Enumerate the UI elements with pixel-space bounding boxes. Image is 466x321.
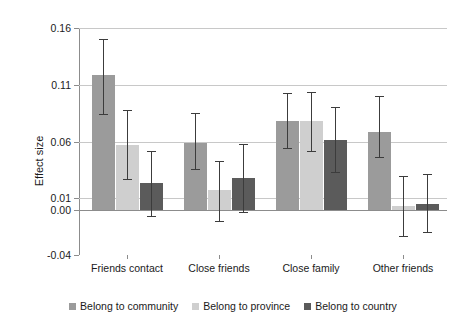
error-bar-stem (127, 110, 128, 179)
gridline (79, 85, 447, 86)
y-tick-label: 0.00 (51, 204, 71, 216)
x-tick-label: Close family (282, 262, 339, 274)
x-tick-mark (219, 255, 220, 259)
error-bar-cap-upper (307, 92, 316, 93)
error-bar-stem (243, 144, 244, 212)
y-tick-label: 0.11 (51, 79, 71, 91)
error-bar-cap-upper (423, 174, 432, 175)
error-bar-cap-upper (215, 161, 224, 162)
legend-entry: Belong to province (192, 300, 290, 312)
error-bar-stem (403, 176, 404, 236)
legend-label: Belong to community (80, 300, 178, 312)
error-bar-cap-lower (215, 221, 224, 222)
error-bar-cap-upper (191, 113, 200, 114)
x-tick-mark (311, 255, 312, 259)
gridline (79, 210, 447, 211)
error-bar-cap-lower (147, 216, 156, 217)
y-tick-label: 0.06 (51, 136, 71, 148)
plot-area: 0.160.110.060.010.00-0.04 (79, 28, 447, 255)
error-bar-cap-upper (375, 96, 384, 97)
y-tick-mark (74, 255, 79, 256)
error-bar-cap-lower (423, 232, 432, 233)
error-bar-cap-lower (123, 179, 132, 180)
x-tick-mark (403, 255, 404, 259)
error-bar-cap-upper (147, 151, 156, 152)
error-bar-cap-lower (239, 212, 248, 213)
y-tick-mark (74, 142, 79, 143)
chart-legend: Belong to communityBelong to provinceBel… (0, 300, 466, 312)
y-tick-mark (74, 85, 79, 86)
legend-swatch (304, 303, 311, 310)
error-bar-stem (103, 39, 104, 114)
legend-entry: Belong to country (304, 300, 397, 312)
error-bar-cap-upper (399, 176, 408, 177)
gridline (79, 142, 447, 143)
y-tick-label: 0.01 (51, 192, 71, 204)
error-bar-stem (287, 93, 288, 149)
y-tick-mark (74, 210, 79, 211)
y-axis-title: Effect size (33, 135, 45, 186)
error-bar-cap-upper (123, 110, 132, 111)
error-bar-cap-lower (399, 236, 408, 237)
error-bar-cap-lower (99, 114, 108, 115)
legend-label: Belong to country (315, 300, 397, 312)
error-bar-cap-lower (331, 172, 340, 173)
y-tick-mark (74, 28, 79, 29)
legend-swatch (192, 303, 199, 310)
error-bar-stem (335, 107, 336, 172)
error-bar-stem (311, 92, 312, 151)
effect-size-bar-chart: Effect size 0.160.110.060.010.00-0.04 Fr… (0, 0, 466, 321)
legend-swatch (69, 303, 76, 310)
x-tick-label: Close friends (188, 262, 249, 274)
y-tick-label: 0.16 (51, 22, 71, 34)
error-bar-cap-lower (307, 151, 316, 152)
error-bar-cap-upper (331, 107, 340, 108)
x-tick-mark (127, 255, 128, 259)
y-tick-label: -0.04 (47, 249, 71, 261)
error-bar-stem (379, 96, 380, 157)
gridline (79, 28, 447, 29)
error-bar-stem (427, 174, 428, 232)
x-tick-label: Other friends (373, 262, 434, 274)
error-bar-stem (195, 113, 196, 169)
error-bar-cap-lower (283, 148, 292, 149)
error-bar-cap-lower (375, 157, 384, 158)
y-tick-mark (74, 198, 79, 199)
error-bar-cap-upper (99, 39, 108, 40)
error-bar-cap-lower (191, 169, 200, 170)
error-bar-stem (151, 151, 152, 217)
legend-label: Belong to province (203, 300, 290, 312)
error-bar-cap-upper (283, 93, 292, 94)
x-tick-label: Friends contact (91, 262, 163, 274)
legend-entry: Belong to community (69, 300, 178, 312)
error-bar-stem (219, 161, 220, 221)
error-bar-cap-upper (239, 144, 248, 145)
